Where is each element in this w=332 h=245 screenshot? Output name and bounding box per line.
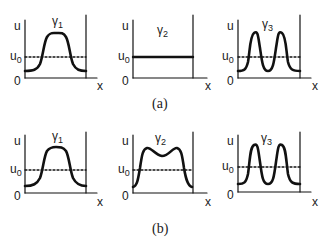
panel-a3-x-label: x bbox=[312, 80, 318, 92]
panel-a1-y-label: u bbox=[14, 20, 21, 32]
u0-base: u bbox=[10, 162, 17, 176]
u0-subscript: 0 bbox=[229, 165, 234, 175]
panel-b2-curve bbox=[133, 148, 192, 187]
panel-a3-title: γ3 bbox=[262, 18, 273, 31]
title-subscript: 2 bbox=[161, 137, 166, 147]
panel-b1-title: γ1 bbox=[52, 130, 63, 143]
title-subscript: 3 bbox=[268, 23, 273, 33]
panel-b1-u0-label: u0 bbox=[10, 163, 22, 176]
panel-b1-x-label: x bbox=[97, 196, 103, 208]
u0-base: u bbox=[118, 162, 125, 176]
u0-base: u bbox=[222, 159, 229, 173]
u0-base: u bbox=[10, 49, 17, 63]
panel-a1-u0-label: u0 bbox=[10, 50, 22, 63]
panel-a3-u0-label: u0 bbox=[222, 50, 234, 63]
panel-a1-origin-label: 0 bbox=[14, 75, 21, 87]
u0-subscript: 0 bbox=[125, 168, 130, 178]
u0-subscript: 0 bbox=[17, 168, 22, 178]
panel-b2-u0-label: u0 bbox=[118, 163, 130, 176]
panel-a2-origin-label: 0 bbox=[122, 75, 129, 87]
panel-a2-x-label: x bbox=[205, 80, 211, 92]
panel-a2-axes bbox=[133, 15, 207, 78]
panel-b2-x-label: x bbox=[205, 196, 211, 208]
panel-b1-y-label: u bbox=[14, 135, 21, 147]
panel-a1-curve bbox=[25, 33, 86, 71]
panel-b3-x-label: x bbox=[312, 196, 318, 208]
panel-b2-axes bbox=[133, 132, 207, 193]
title-subscript: 2 bbox=[163, 29, 168, 39]
u0-subscript: 0 bbox=[125, 55, 130, 65]
title-subscript: 3 bbox=[267, 137, 272, 147]
panel-a3-curve bbox=[238, 32, 300, 71]
panel-b2-origin-label: 0 bbox=[122, 190, 129, 202]
panel-a2-u0-label: u0 bbox=[118, 50, 130, 63]
panel-b2-y-label: u bbox=[122, 135, 129, 147]
panel-b3-title: γ3 bbox=[261, 132, 272, 145]
panel-a1-title: γ1 bbox=[52, 15, 63, 28]
panel-a2-y-label: u bbox=[122, 20, 129, 32]
u0-subscript: 0 bbox=[17, 55, 22, 65]
row-b-caption: (b) bbox=[152, 222, 168, 236]
panel-a1-x-label: x bbox=[97, 80, 103, 92]
u0-base: u bbox=[118, 49, 125, 63]
panel-b3-curve bbox=[238, 145, 300, 184]
panel-b2-title: γ2 bbox=[155, 132, 166, 145]
panel-b3-u0-label: u0 bbox=[222, 160, 234, 173]
panel-a2-title: γ2 bbox=[157, 24, 168, 37]
title-subscript: 1 bbox=[58, 20, 63, 30]
panel-a3-origin-label: 0 bbox=[227, 75, 234, 87]
panel-b3-y-label: u bbox=[227, 135, 234, 147]
panel-b1-origin-label: 0 bbox=[14, 190, 21, 202]
u0-base: u bbox=[222, 49, 229, 63]
panel-a3-y-label: u bbox=[227, 20, 234, 32]
u0-subscript: 0 bbox=[229, 55, 234, 65]
row-a-caption: (a) bbox=[152, 97, 168, 111]
title-subscript: 1 bbox=[58, 135, 63, 145]
panel-b1-curve bbox=[25, 147, 86, 186]
panel-b3-origin-label: 0 bbox=[227, 189, 234, 201]
